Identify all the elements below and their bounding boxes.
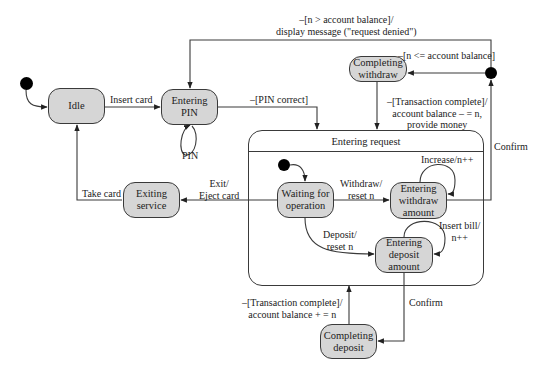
label-withdraw-reset: Withdraw/ reset n xyxy=(340,178,382,201)
label-deposit-reset: Deposit/ reset n xyxy=(323,229,357,252)
state-label: Waiting for operation xyxy=(282,188,330,212)
pin-correct-edge xyxy=(218,107,317,129)
composite-title: Entering request xyxy=(249,131,483,152)
label-confirm-withdraw: Confirm xyxy=(494,141,528,153)
state-idle[interactable]: Idle xyxy=(48,88,105,124)
state-label: Entering PIN xyxy=(171,95,207,119)
state-label: Entering withdraw amount xyxy=(399,183,439,219)
state-label: Completing deposit xyxy=(324,330,374,354)
label-insert-bill: Insert bill/ n++ xyxy=(439,220,480,243)
state-entering-pin[interactable]: Entering PIN xyxy=(161,89,218,125)
label-take-card: Take card xyxy=(82,188,121,200)
state-waiting-for-operation[interactable]: Waiting for operation xyxy=(277,182,334,218)
label-insert-card: Insert card xyxy=(110,94,152,106)
state-entering-deposit-amount[interactable]: Entering deposit amount xyxy=(375,237,433,273)
withdraw-choice-pseudostate xyxy=(485,67,497,79)
label-pin-loop: PIN xyxy=(182,150,198,162)
state-exiting-service[interactable]: Exiting service xyxy=(123,182,180,218)
state-label: Entering deposit amount xyxy=(386,237,422,273)
state-label: Completing withdraw xyxy=(353,57,403,81)
label-pin-correct: –[PIN correct] xyxy=(250,94,308,106)
label-withdraw-complete: –[Transaction complete]/ account balance… xyxy=(387,96,487,131)
label-increase: Increase/n++ xyxy=(421,154,473,166)
label-exit-eject: Exit/ Eject card xyxy=(199,178,239,201)
label-request-denied: –[n > account balance]/ display message … xyxy=(276,14,417,37)
state-completing-deposit[interactable]: Completing deposit xyxy=(320,324,377,359)
state-label: Exiting service xyxy=(136,188,167,212)
initial-to-idle-edge xyxy=(26,90,47,107)
label-confirm-deposit: Confirm xyxy=(409,297,443,309)
state-entering-withdraw-amount[interactable]: Entering withdraw amount xyxy=(390,182,447,219)
initial-pseudostate xyxy=(20,77,33,90)
label-deposit-complete: –[Transaction complete]/ account balance… xyxy=(242,297,342,320)
state-label: Idle xyxy=(68,100,84,112)
request-denied-edge xyxy=(190,40,491,88)
label-balance-ok: –[n <= account balance] xyxy=(398,50,495,62)
